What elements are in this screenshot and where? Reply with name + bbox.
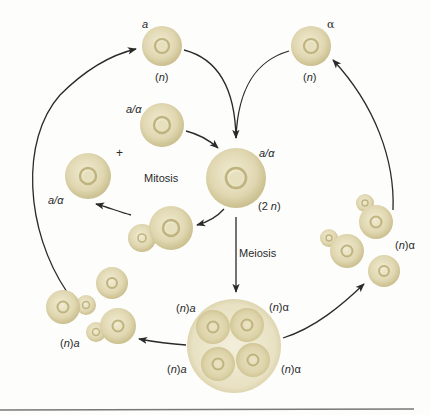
arrow-mitotic-parent-to-diploid: [186, 131, 218, 148]
label-cluster-alpha: (n)α: [395, 240, 415, 251]
label-mitosis: Mitosis: [144, 173, 178, 184]
cell-diploid-2n: [206, 148, 266, 208]
cell-left-diploid: [65, 153, 111, 199]
label-mitotic-diploid-type: a/α: [126, 104, 141, 115]
bottom-rule: [0, 409, 414, 410]
arrow-diploid-to-budding: [197, 209, 224, 225]
label-ascus-bottom-right: (n)α: [281, 364, 301, 375]
arrow-alpha-to-diploid: [236, 51, 289, 138]
cell-budding-diploid: [128, 206, 193, 252]
label-haploid-a-ploidy: (n): [155, 72, 168, 83]
diagram-graphics: [0, 0, 430, 415]
label-diploid-type: a/α: [259, 148, 274, 159]
arrow-a-to-diploid: [184, 50, 236, 138]
label-ascus-top-right: (n)α: [269, 302, 289, 313]
spore-top-left: [196, 310, 230, 344]
label-meiosis: Meiosis: [239, 248, 276, 259]
spore-bottom-right: [236, 343, 270, 377]
label-cluster-a: (n)a: [60, 338, 80, 349]
label-left-diploid-type: a/α: [48, 195, 63, 206]
cell-haploid-alpha: [291, 26, 331, 66]
label-haploid-alpha-type: α: [327, 19, 334, 30]
cluster-a-cells: [46, 267, 136, 344]
spore-bottom-left: [201, 347, 235, 381]
label-diploid-ploidy: (2 n): [258, 201, 281, 212]
cell-mitotic-diploid: [140, 103, 184, 147]
label-plus-sign: +: [116, 147, 123, 159]
label-ascus-bottom-left: (n)a: [167, 364, 187, 375]
cell-haploid-a: [142, 26, 182, 66]
arrow-ascus-to-cluster-a: [139, 339, 186, 345]
label-haploid-a-type: a: [142, 19, 148, 30]
arrow-cluster-alpha-to-haploid-alpha: [333, 60, 393, 210]
arrow-ascus-to-cluster-alpha: [283, 284, 364, 338]
life-cycle-diagram: a (n) α (n) a/α + Mitosis a/α (2 n) a/α …: [0, 0, 430, 415]
spore-top-right: [230, 308, 264, 342]
arrow-budding-to-left-diploid: [96, 204, 131, 215]
ascus: [187, 299, 281, 393]
cluster-alpha-cells: [320, 194, 400, 287]
label-ascus-top-left: (n)a: [176, 303, 196, 314]
label-haploid-alpha-ploidy: (n): [303, 72, 316, 83]
